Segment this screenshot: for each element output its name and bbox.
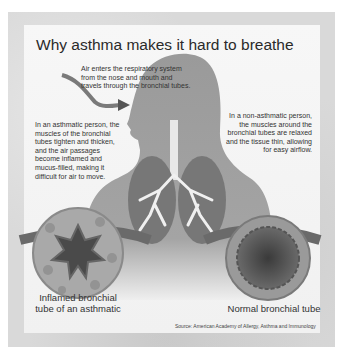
arrow-head-icon [118, 99, 130, 111]
normal-bronchial-tube [226, 216, 310, 300]
infographic-title: Why asthma makes it hard to breathe [36, 36, 294, 54]
non-asthmatic-note: In a non-asthmatic person, the muscles a… [222, 112, 312, 155]
source-credit: Source: American Academy of Allergy, Ast… [175, 323, 316, 329]
inflamed-tube-caption: Inflamed bronchial tube of an asthmatic [32, 292, 124, 314]
inflamed-bronchial-tube [33, 208, 123, 298]
asthmatic-note: In an asthmatic person, the muscles of t… [35, 121, 125, 181]
trachea [170, 120, 178, 180]
normal-tube-caption: Normal bronchial tube [226, 303, 322, 314]
air-entry-note: Air enters the respiratory system from t… [81, 65, 191, 91]
